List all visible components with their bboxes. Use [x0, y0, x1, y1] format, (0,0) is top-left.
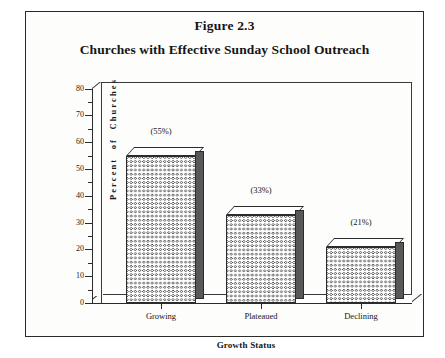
y-tick-label-50: 50: [58, 164, 84, 173]
y-tick-minor-25: [88, 236, 92, 237]
y-tick-label-60: 60: [58, 137, 84, 146]
y-tick-10: [85, 276, 92, 277]
figure-number: Figure 2.3: [26, 18, 423, 34]
bar-growing[interactable]: [126, 147, 196, 303]
bar-declining-top-face: [326, 238, 404, 247]
y-tick-minor-5: [88, 290, 92, 291]
y-tick-minor-45: [88, 182, 92, 183]
x-axis-line: [92, 303, 412, 304]
bar-growing-value-label: (55%): [121, 126, 201, 136]
y-tick-minor-65: [88, 129, 92, 130]
bar-declining[interactable]: [326, 238, 396, 303]
x-axis-label-growing: Growing: [116, 311, 206, 321]
x-axis-label-declining: Declining: [316, 311, 406, 321]
x-axis-title: Growth Status: [67, 340, 425, 350]
y-tick-minor-35: [88, 209, 92, 210]
y-axis-line: [92, 89, 93, 303]
bar-growing-side-face: [195, 151, 204, 299]
y-tick-minor-55: [88, 156, 92, 157]
plot-area: Percent of Churches 80 70 60 50 40 30 20…: [67, 64, 425, 316]
bar-plateaued-front-face: [226, 215, 296, 303]
y-tick-80: [85, 89, 92, 90]
bar-declining-side-face: [395, 242, 404, 299]
y-tick-minor-75: [88, 102, 92, 103]
y-tick-40: [85, 196, 92, 197]
figure-frame: Figure 2.3 Churches with Effective Sunda…: [25, 11, 424, 337]
y-tick-minor-15: [88, 263, 92, 264]
bar-declining-front-face: [326, 247, 396, 303]
y-tick-label-20: 20: [58, 244, 84, 253]
y-tick-label-40: 40: [58, 191, 84, 200]
y-tick-label-10: 10: [58, 271, 84, 280]
bar-growing-front-face: [126, 156, 196, 303]
x-tick-plateaued: [261, 304, 262, 309]
y-tick-70: [85, 115, 92, 116]
bar-plateaued[interactable]: [226, 206, 296, 303]
x-axis-label-plateaued: Plateaued: [216, 311, 306, 321]
bar-plateaued-top-face: [226, 206, 304, 215]
depth-line-top: [92, 82, 104, 92]
depth-line-right: [412, 294, 422, 304]
y-tick-label-70: 70: [58, 110, 84, 119]
bar-declining-value-label: (21%): [321, 217, 401, 227]
y-tick-label-80: 80: [58, 84, 84, 93]
y-axis-title: Percent of Churches: [108, 69, 118, 209]
bar-growing-top-face: [126, 147, 204, 156]
x-tick-declining: [361, 304, 362, 309]
y-tick-20: [85, 249, 92, 250]
chart-title: Churches with Effective Sunday School Ou…: [26, 42, 423, 58]
y-tick-50: [85, 169, 92, 170]
y-tick-label-0: 0: [58, 298, 84, 307]
y-tick-30: [85, 223, 92, 224]
bar-plateaued-side-face: [295, 210, 304, 299]
y-tick-60: [85, 142, 92, 143]
bar-plateaued-value-label: (33%): [221, 185, 301, 195]
y-tick-0: [85, 303, 92, 304]
x-tick-growing: [161, 304, 162, 309]
y-tick-label-30: 30: [58, 218, 84, 227]
